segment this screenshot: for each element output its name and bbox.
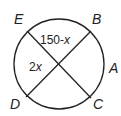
angle-left-label: 2x	[29, 60, 43, 74]
angle-top-label: 150-x	[40, 33, 71, 47]
label-a: A	[108, 60, 118, 76]
circle-diagram: E B A D C 150-x 2x	[0, 0, 121, 116]
label-c: C	[93, 96, 104, 112]
label-e: E	[14, 11, 24, 27]
label-b: B	[92, 11, 101, 27]
label-d: D	[10, 96, 20, 112]
